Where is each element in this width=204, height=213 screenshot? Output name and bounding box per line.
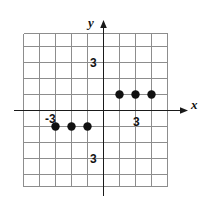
y-axis-label: y (86, 15, 94, 30)
data-point (147, 90, 155, 98)
x-tick-label-positive-3: 3 (133, 115, 140, 129)
data-point (51, 122, 59, 130)
x-axis-label: x (190, 97, 198, 112)
x-axis (14, 107, 188, 114)
data-point (83, 122, 91, 130)
data-point (115, 90, 123, 98)
y-tick-label-negative-3: 3 (90, 152, 97, 166)
y-axis-arrow (100, 20, 107, 28)
coordinate-plane-svg: y x 3 3 -3 3 (0, 0, 204, 213)
coordinate-graph-figure: y x 3 3 -3 3 (0, 0, 204, 213)
y-tick-label-positive-3: 3 (90, 56, 97, 70)
data-point (131, 90, 139, 98)
x-axis-arrow (180, 107, 188, 114)
data-point (67, 122, 75, 130)
